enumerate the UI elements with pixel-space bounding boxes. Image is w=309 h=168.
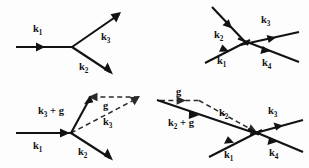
- arrow-k3-head: [274, 122, 283, 130]
- arrow-k2-head: [104, 149, 113, 161]
- label-k3: k3: [103, 116, 113, 129]
- arrow-k1-head: [36, 43, 45, 52]
- label-k3-plus-g: k3 + g: [38, 105, 65, 118]
- panel-top-right-four-vector-crossing: k2 k1 k3 k4: [205, 7, 299, 70]
- arrow-k3-line: [72, 15, 119, 48]
- label-k2: k2: [219, 107, 229, 120]
- arrow-k1-head: [60, 128, 70, 137]
- label-k1: k1: [217, 55, 227, 68]
- label-k1: k1: [33, 23, 43, 36]
- label-k2: k2: [214, 29, 224, 42]
- panel-top-left-three-vector-vertex: k1 k3 k2: [16, 12, 121, 75]
- label-g: g: [176, 86, 182, 97]
- arrow-k3-head: [111, 12, 122, 23]
- arrow-k2-head: [104, 63, 113, 75]
- arrow-k1-head: [219, 45, 229, 52]
- panel-bottom-right-umklapp-four-vector: g k2 + g k2 k1 k3 k4: [157, 86, 303, 162]
- arrow-k2-line: [71, 133, 110, 158]
- scattering-diagrams-svg: k1 k3 k2 k2 k1 k3 k4: [0, 0, 309, 168]
- label-k4: k4: [269, 147, 279, 160]
- label-k2: k2: [79, 61, 89, 74]
- arrow-k2-line: [72, 47, 110, 72]
- label-k1: k1: [33, 140, 43, 153]
- label-k3: k3: [101, 31, 111, 44]
- panel-bottom-left-umklapp-three-vector: k1 k3 + g k3 g k2: [16, 93, 140, 161]
- label-k2: k2: [78, 146, 88, 159]
- label-k3: k3: [268, 105, 278, 118]
- arrow-k3-head: [267, 35, 276, 43]
- label-g: g: [103, 100, 109, 111]
- label-k1: k1: [224, 149, 234, 162]
- arrow-k1-head: [224, 136, 234, 144]
- label-k4: k4: [262, 57, 272, 70]
- label-k3: k3: [261, 14, 271, 27]
- figure-canvas: k1 k3 k2 k2 k1 k3 k4: [0, 0, 309, 168]
- label-k2-plus-g: k2 + g: [168, 117, 195, 130]
- arrow-g-head: [177, 96, 186, 104]
